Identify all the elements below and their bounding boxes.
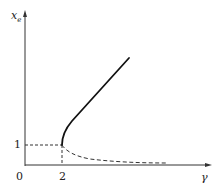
bifurcation-plot <box>0 0 217 185</box>
y-axis-label: xe <box>11 10 21 24</box>
dashed-branch-curve <box>62 145 168 163</box>
y-tick-1: 1 <box>14 139 21 150</box>
x-tick-2: 2 <box>59 171 66 182</box>
y-axis-arrow-icon <box>23 10 27 17</box>
origin-label: 0 <box>16 171 23 182</box>
x-axis-label: γ <box>201 172 208 183</box>
chart-container: xe 1 0 2 γ <box>0 0 217 185</box>
solid-branch-curve <box>62 58 129 145</box>
x-axis-arrow-icon <box>205 163 212 167</box>
